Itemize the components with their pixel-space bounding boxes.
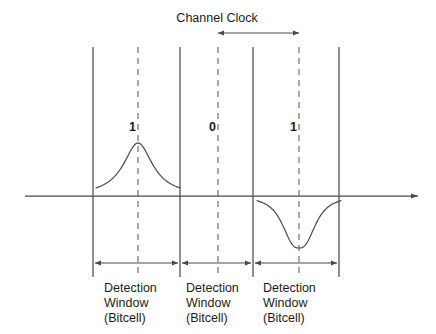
- detection-window-1-label-line-1: Detection: [104, 281, 157, 296]
- channel-clock-label: Channel Clock: [176, 11, 257, 26]
- detection-window-1-label-line-3: (Bitcell): [104, 311, 157, 326]
- bit-value-label-1: 1: [129, 120, 136, 135]
- detection-window-3-label-line-1: Detection: [263, 281, 316, 296]
- detection-window-1-label-line-2: Window: [104, 296, 157, 311]
- detection-window-1-label: DetectionWindow(Bitcell): [104, 281, 157, 325]
- detection-window-3-label-line-3: (Bitcell): [263, 311, 316, 326]
- bit-value-label-3: 1: [290, 120, 297, 135]
- channel-clock-diagram: Channel Clock DetectionWindow(Bitcell)De…: [0, 0, 436, 334]
- bitcell-boundary-lines: [93, 47, 339, 277]
- detection-window-3-label-line-2: Window: [263, 296, 316, 311]
- detection-window-3-label: DetectionWindow(Bitcell): [263, 281, 316, 325]
- bit-value-label-2: 0: [209, 120, 216, 135]
- bitcell-center-dashed-lines: [138, 47, 299, 277]
- detection-window-2-label-line-1: Detection: [186, 281, 239, 296]
- detection-window-2-label-line-2: Window: [186, 296, 239, 311]
- detection-window-2-label: DetectionWindow(Bitcell): [186, 281, 239, 325]
- detection-window-2-label-line-3: (Bitcell): [186, 311, 239, 326]
